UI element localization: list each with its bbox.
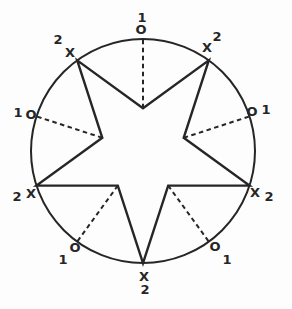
dashed-line-lower-right [168, 186, 209, 242]
count-label-right: 2 [264, 189, 273, 204]
dashed-line-right [184, 116, 250, 137]
count-label-bottom: 2 [140, 282, 149, 297]
mark-label-lower-right: O [209, 239, 220, 254]
count-label-lower-left: 1 [58, 252, 67, 267]
count-label-mid-left: 1 [13, 105, 22, 120]
mark-label-upper-right: X [202, 40, 212, 55]
dashed-line-lower-left [77, 186, 118, 242]
mark-label-right: X [250, 185, 260, 200]
count-label-lower-right: 1 [222, 252, 231, 267]
mark-label-top: O [135, 22, 146, 37]
diagram-canvas: 1 O 2 X 2 X 1 O O 1 2 X X 2 O 1 O 1 X 2 [0, 0, 292, 309]
mark-label-left: X [26, 186, 36, 201]
dashed-line-left [37, 116, 103, 137]
count-label-upper-left: 2 [53, 32, 62, 47]
mark-label-upper-left: X [65, 45, 75, 60]
count-label-mid-right: 1 [261, 102, 270, 117]
count-label-left: 2 [12, 189, 21, 204]
star-circle-diagram: 1 O 2 X 2 X 1 O O 1 2 X X 2 O 1 O 1 X 2 [0, 0, 292, 309]
mark-label-mid-right: O [246, 104, 257, 119]
mark-label-mid-left: O [25, 107, 36, 122]
mark-label-lower-left: O [69, 240, 80, 255]
count-label-upper-right: 2 [212, 29, 221, 44]
